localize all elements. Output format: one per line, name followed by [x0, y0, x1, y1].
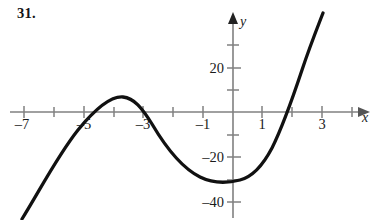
x-tick-label-neg7: –7	[15, 116, 30, 133]
y-tick-label-20: 20	[196, 60, 224, 77]
y-tick-label-neg40: –40	[188, 194, 224, 211]
y-axis	[228, 12, 238, 218]
y-axis-ticks	[227, 45, 241, 202]
x-tick-label-1: 1	[258, 116, 265, 133]
problem-number-label: 31.	[17, 5, 36, 22]
x-tick-label-3: 3	[318, 116, 325, 133]
x-tick-label-neg3: –3	[136, 116, 151, 133]
figure-container: 31.	[0, 0, 372, 220]
x-tick-label-neg5: –5	[77, 116, 92, 133]
graph-plot-area	[0, 0, 372, 220]
x-tick-label-neg1: –1	[196, 116, 211, 133]
y-axis-name-label: y	[240, 14, 246, 30]
x-axis-name-label: x	[362, 110, 368, 126]
y-tick-label-neg20: –20	[188, 149, 224, 166]
x-axis	[10, 107, 370, 117]
